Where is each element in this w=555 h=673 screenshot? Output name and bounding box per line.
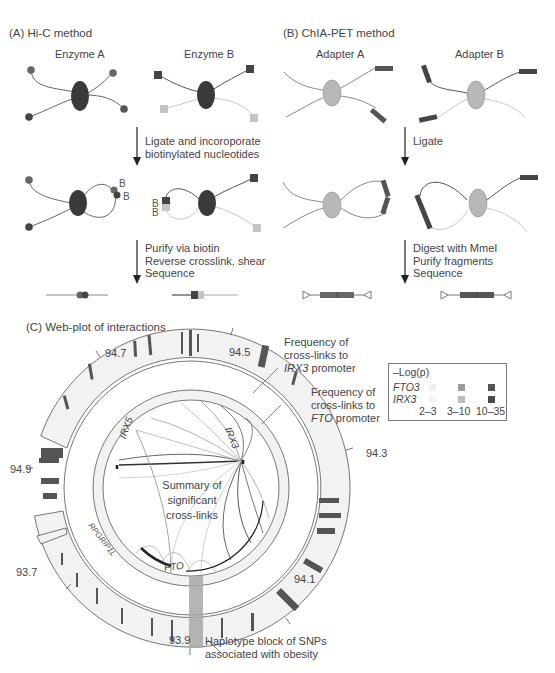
hic-step1-text: Ligate and incoroporate biotinylated nuc… [145, 135, 261, 160]
legend-col-2: 3–10 [447, 405, 470, 418]
hic-read-a [46, 292, 108, 299]
arrow-step1-a [133, 127, 141, 166]
arrow-step1-b [401, 127, 409, 166]
legend-swatch-fto-mid [458, 384, 465, 391]
tick-label-94-5: 94.5 [229, 346, 250, 359]
arrow-step2-b [401, 240, 409, 284]
tick-label-94-7: 94.7 [105, 347, 126, 360]
hic-enzyme-a-complex [25, 66, 128, 121]
legend-swatch-irx-low [429, 396, 436, 403]
callout-fto-line3: FTO promoter [311, 412, 380, 425]
chiapet-ligated-a [283, 179, 391, 228]
chiapet-read-a [303, 291, 371, 299]
tick-label-93-7: 93.7 [16, 566, 37, 579]
legend-swatch-irx-mid [458, 396, 465, 403]
legend-swatch-fto-high [488, 384, 495, 391]
callout-irx3-line3: IRX3 promoter [284, 362, 356, 375]
chiapet-step2-text: Digest with MmeI Purify fragments Sequen… [413, 242, 497, 280]
biotin-label: B [119, 178, 126, 189]
tick-label-94-1: 94.1 [294, 573, 315, 586]
hic-enzyme-b-complex [154, 65, 258, 122]
callout-line-fto [262, 405, 281, 424]
chiapet-adapter-b-complex [419, 65, 537, 123]
hic-ligated-a [25, 176, 120, 231]
callout-fto-suffix: promoter [333, 412, 380, 424]
chiapet-adapter-a-complex [284, 66, 393, 123]
callout-irx3: Frequency of cross-links to IRX3 promote… [284, 336, 356, 375]
chiapet-read-b [441, 291, 511, 299]
legend-title: –Log(p) [393, 366, 429, 379]
center-label: Summary of significant cross-links [160, 478, 224, 523]
legend-swatch-irx-high [488, 396, 495, 403]
legend-col-1: 2–3 [419, 405, 437, 418]
haplotype-band [189, 576, 203, 648]
callout-irx3-suffix: promoter [308, 362, 355, 374]
callout-irx3-line2: cross-links to [284, 349, 356, 362]
biotin-label: B [123, 191, 130, 202]
callout-irx3-gene: IRX3 [284, 362, 308, 374]
hic-step2-text: Purify via biotin Reverse crosslink, she… [145, 242, 265, 280]
callout-fto-line1: Frequency of [311, 386, 380, 399]
hic-ligated-b [162, 174, 261, 232]
chiapet-ligated-b [414, 175, 538, 232]
chiapet-step1-text: Ligate [413, 135, 443, 148]
arrow-step2-a [133, 240, 141, 284]
tick-label-93-9: 93.9 [169, 634, 190, 647]
biotin-label: B [152, 207, 159, 218]
diagram-canvas: B B B B [0, 0, 555, 673]
tick-label-94-3: 94.3 [366, 447, 387, 460]
callout-fto-line2: cross-links to [311, 399, 380, 412]
callout-haplotype: Haplotype block of SNPs associated with … [205, 635, 327, 661]
hic-read-b [172, 291, 238, 299]
gene-label-fto: FTO [163, 559, 184, 575]
legend-swatch-fto-low [429, 384, 436, 391]
callout-irx3-line1: Frequency of [284, 336, 356, 349]
legend-col-3: 10–35 [476, 405, 505, 418]
legend: –Log(p) FTO3 IRX3 2–3 3–10 10–35 [388, 363, 507, 421]
legend-row-irx3: IRX3 [393, 393, 416, 406]
callout-fto: Frequency of cross-links to FTO promoter [311, 386, 380, 425]
panel-c-title: (C) Web-plot of interactions [26, 321, 166, 334]
callout-fto-gene: FTO [311, 412, 333, 424]
tick-label-94-9: 94.9 [10, 463, 31, 476]
